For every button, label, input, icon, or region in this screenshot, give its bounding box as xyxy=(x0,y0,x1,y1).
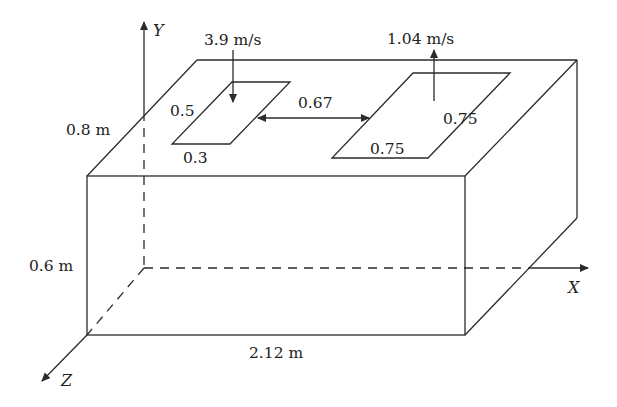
inlet-velocity-label: 3.9 m/s xyxy=(204,31,261,49)
y-axis-label: Y xyxy=(153,21,165,40)
bottom-right-edge xyxy=(465,218,577,335)
outlet-opening xyxy=(332,50,510,158)
z-axis xyxy=(42,268,144,381)
inlet-opening xyxy=(172,50,290,144)
top-right-edge xyxy=(465,60,577,176)
length-label: 2.12 m xyxy=(249,344,303,362)
outlet-side-b-label: 0.75 xyxy=(370,140,405,158)
height-label: 0.6 m xyxy=(29,257,74,275)
outlet-velocity-label: 1.04 m/s xyxy=(387,30,454,48)
depth-label: 0.8 m xyxy=(66,121,111,139)
x-axis-label: X xyxy=(566,278,580,297)
inlet-side-a-label: 0.5 xyxy=(170,102,195,120)
box-diagram: Y X Z 3.9 m/s 1.04 m/s 0.5 0.3 0.67 0.75… xyxy=(0,0,617,407)
inlet-side-b-label: 0.3 xyxy=(183,149,208,167)
z-axis-label: Z xyxy=(60,371,73,390)
spacing-label: 0.67 xyxy=(298,94,333,112)
outlet-side-a-label: 0.75 xyxy=(443,110,478,128)
